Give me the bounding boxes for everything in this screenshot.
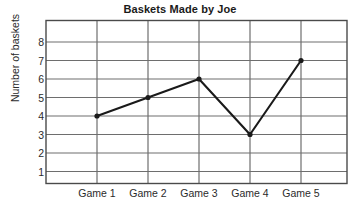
data-point — [196, 76, 201, 81]
data-point — [94, 113, 99, 118]
data-point — [247, 132, 252, 137]
plot-area — [0, 0, 360, 209]
data-point — [298, 58, 303, 63]
plot-frame — [46, 21, 347, 184]
data-point — [145, 95, 150, 100]
vertical-gridlines — [97, 21, 301, 184]
line-chart: Baskets Made by Joe Number of baskets 8 … — [0, 0, 360, 209]
